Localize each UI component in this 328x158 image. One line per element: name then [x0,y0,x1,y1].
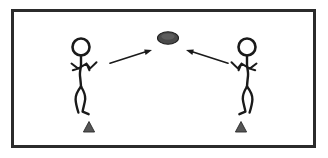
diagram-svg [0,0,328,158]
diagram-canvas [0,0,328,158]
diagram-border [13,11,315,147]
left-player-torso [80,66,81,87]
right-player-torso [247,66,248,87]
right-player-head [239,39,256,56]
left-player-head [73,39,90,56]
disc-icon [158,32,179,44]
